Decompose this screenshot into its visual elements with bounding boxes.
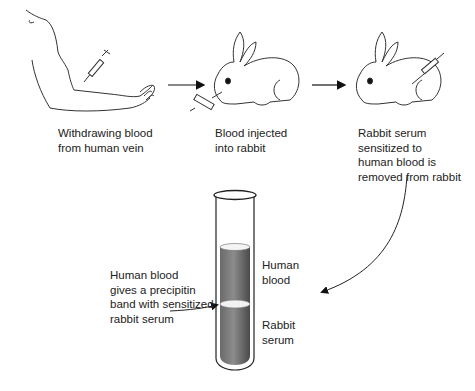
test-tube-icon bbox=[214, 191, 256, 371]
arrow-to-tube-icon bbox=[322, 176, 407, 292]
diagram-canvas bbox=[0, 0, 475, 391]
syringe-icon bbox=[190, 92, 222, 111]
precipitin-band bbox=[220, 300, 250, 308]
tube-label-precipitin-band: Human blood gives a precipitin band with… bbox=[110, 268, 214, 326]
human-arm-icon bbox=[26, 10, 155, 111]
step-label-inject: Blood injected into rabbit bbox=[215, 126, 287, 155]
tube-label-human-blood: Human blood bbox=[262, 258, 299, 287]
tube-label-rabbit-serum: Rabbit serum bbox=[262, 318, 295, 347]
step-label-withdraw: Withdrawing blood from human vein bbox=[58, 126, 153, 155]
step-label-remove: Rabbit serum sensitized to human blood i… bbox=[358, 126, 461, 184]
rabbit-injected-icon bbox=[214, 32, 299, 105]
blood-surface bbox=[220, 244, 250, 251]
syringe-icon bbox=[84, 50, 110, 82]
